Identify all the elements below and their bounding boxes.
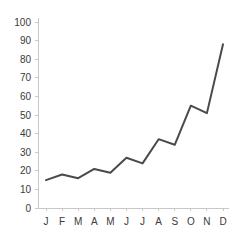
y-tick-label: 90 [20, 35, 32, 46]
plot-area [46, 44, 223, 180]
y-tick-label: 0 [25, 203, 31, 214]
y-tick-label: 60 [20, 91, 32, 102]
x-tick-label: O [187, 216, 195, 227]
y-tick-label: 70 [20, 72, 32, 83]
y-tick-label: 10 [20, 184, 32, 195]
x-tick-label: M [74, 216, 82, 227]
x-tick-label: D [219, 216, 226, 227]
x-tick-label: N [203, 216, 210, 227]
x-tick-label: A [91, 216, 98, 227]
x-tick-label: M [106, 216, 114, 227]
y-tick-label: 100 [14, 17, 31, 28]
x-tick-label: J [124, 216, 129, 227]
x-tick-label: J [44, 216, 49, 227]
line-chart: 0102030405060708090100 JFMAMJJASOND [0, 0, 237, 245]
chart-canvas: 0102030405060708090100 JFMAMJJASOND [0, 0, 237, 245]
x-tick-label: F [59, 216, 65, 227]
data-series-line [46, 44, 223, 180]
x-tick-label: S [171, 216, 178, 227]
y-tick-label: 50 [20, 110, 32, 121]
y-tick-label: 80 [20, 54, 32, 65]
y-tick-label: 40 [20, 128, 32, 139]
y-axis: 0102030405060708090100 [14, 17, 38, 214]
x-axis: JFMAMJJASOND [38, 208, 229, 227]
y-tick-label: 20 [20, 165, 32, 176]
y-tick-label: 30 [20, 147, 32, 158]
x-tick-label: J [140, 216, 145, 227]
x-tick-label: A [155, 216, 162, 227]
